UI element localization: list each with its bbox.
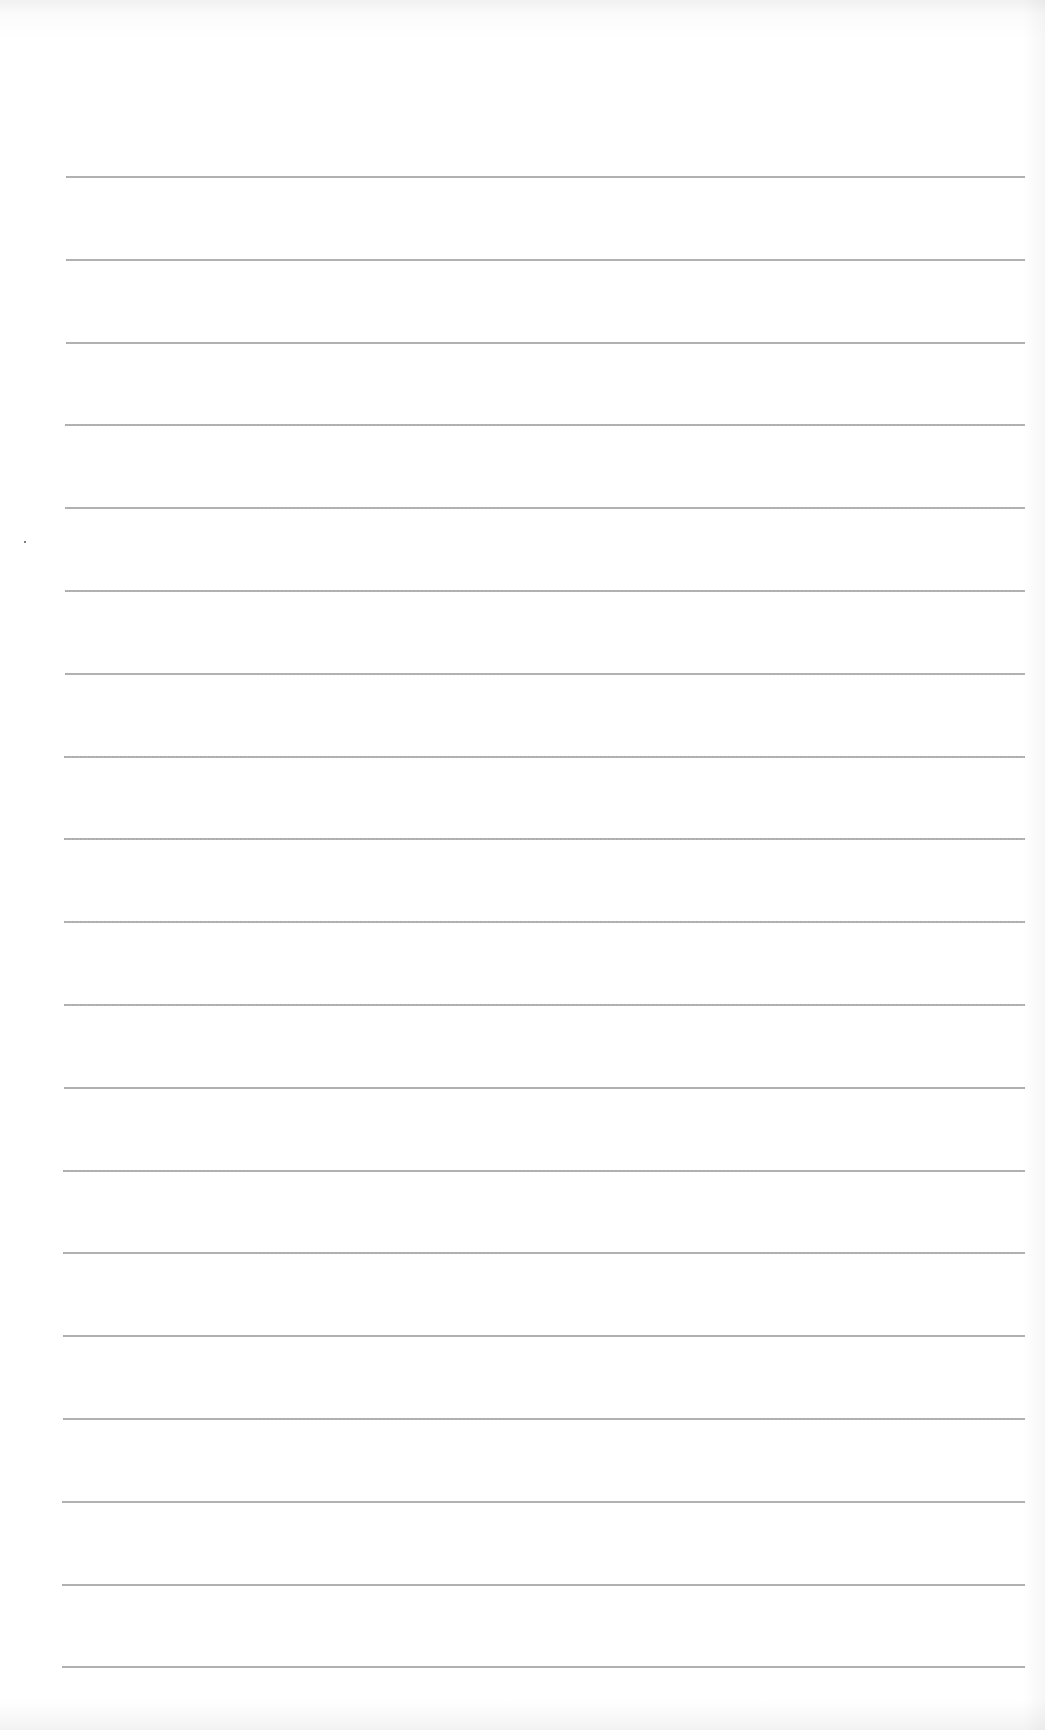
ruled-line <box>66 176 1025 178</box>
ruled-line <box>64 1004 1025 1006</box>
ruled-line <box>63 1335 1025 1337</box>
ruled-paper-sheet <box>0 0 1045 1730</box>
paper-edge-shadow <box>1023 0 1045 1730</box>
ruled-line <box>63 1252 1025 1254</box>
ruled-line <box>64 921 1025 923</box>
ruled-line <box>66 342 1025 344</box>
ruled-line <box>65 507 1025 509</box>
ruled-line <box>65 590 1025 592</box>
ruled-line <box>66 259 1025 261</box>
paper-speck <box>24 541 26 543</box>
ruled-line <box>63 1170 1025 1172</box>
ruled-line <box>62 1501 1025 1503</box>
ruled-line <box>63 1418 1025 1420</box>
ruled-line <box>64 1087 1025 1089</box>
ruled-line <box>64 838 1025 840</box>
ruled-line <box>62 1584 1025 1586</box>
ruled-line <box>65 424 1025 426</box>
ruled-line <box>64 756 1025 758</box>
ruled-line <box>62 1666 1025 1668</box>
ruled-line <box>65 673 1025 675</box>
